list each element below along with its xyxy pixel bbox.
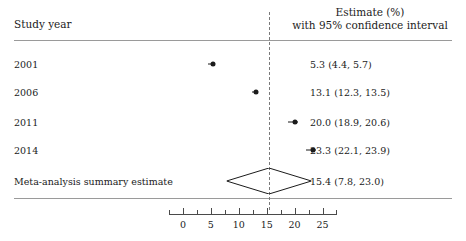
x-axis-major-tick — [323, 208, 324, 215]
x-axis-minor-tick — [253, 210, 254, 215]
estimate-column-header: Estimate (%) with 95% confidence interva… — [290, 6, 450, 32]
x-axis-tick-label: 25 — [316, 219, 328, 230]
estimate-marker — [292, 120, 297, 125]
x-axis-tick-label: 15 — [261, 219, 273, 230]
x-axis-tick-label: 0 — [180, 219, 186, 230]
estimate-column-header-line1: Estimate (%) — [290, 6, 450, 19]
study-estimate-value: 5.3 (4.4, 5.7) — [310, 59, 372, 70]
estimate-column-header-line2: with 95% confidence interval — [290, 19, 450, 32]
study-row-label: 2006 — [14, 87, 38, 98]
x-axis-minor-tick — [336, 210, 337, 215]
x-axis-tick-label: 5 — [208, 219, 214, 230]
x-axis-minor-tick — [225, 210, 226, 215]
estimate-marker — [311, 148, 316, 153]
estimate-marker — [254, 90, 259, 95]
summary-estimate-value: 15.4 (7.8, 23.0) — [310, 176, 384, 187]
x-axis-minor-tick — [197, 210, 198, 215]
study-row-label: 2014 — [14, 145, 38, 156]
study-column-header: Study year — [14, 18, 72, 30]
x-axis-tick-label: 10 — [233, 219, 245, 230]
study-row-label: 2011 — [14, 117, 38, 128]
study-estimate-value: 13.1 (12.3, 13.5) — [310, 87, 390, 98]
x-axis-major-tick — [211, 208, 212, 215]
x-axis-minor-tick — [281, 210, 282, 215]
forest-plot: Study year Estimate (%) with 95% confide… — [0, 0, 466, 241]
x-axis-major-tick — [239, 208, 240, 215]
x-axis-major-tick — [295, 208, 296, 215]
study-estimate-value: 23.3 (22.1, 23.9) — [310, 145, 390, 156]
x-axis-major-tick — [183, 208, 184, 215]
x-axis-major-tick — [267, 208, 268, 215]
study-row-label: 2001 — [14, 59, 38, 70]
summary-diamond — [227, 168, 312, 194]
estimate-marker — [210, 62, 215, 67]
x-axis-minor-tick — [169, 210, 170, 215]
footer-divider — [14, 198, 452, 199]
summary-row-label: Meta-analysis summary estimate — [14, 176, 173, 187]
study-estimate-value: 20.0 (18.9, 20.6) — [310, 117, 390, 128]
x-axis-minor-tick — [309, 210, 310, 215]
x-axis-tick-label: 20 — [289, 219, 301, 230]
header-divider — [14, 40, 452, 41]
